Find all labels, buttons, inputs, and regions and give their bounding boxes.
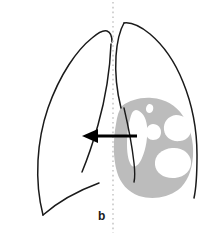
figure-panel: b [0, 0, 218, 235]
left-lung-outline [38, 31, 112, 215]
cavity-small-central [146, 124, 161, 140]
cavity-lower-lateral [155, 148, 191, 178]
panel-label-b: b [98, 210, 105, 222]
chest-schematic-svg [0, 0, 218, 235]
cavity-upper-lateral [164, 115, 191, 141]
left-lung-medial-border [82, 44, 111, 172]
arrow-head [82, 129, 98, 143]
left-lung-group [38, 31, 112, 215]
left-lung-diaphragm [43, 183, 99, 215]
right-lung-medial-border [116, 23, 124, 108]
